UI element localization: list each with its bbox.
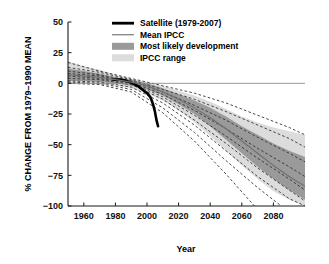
y-tick-label: 0 — [58, 79, 63, 89]
x-tick-label: 1980 — [105, 211, 125, 221]
y-tick-label: 25 — [53, 48, 63, 58]
x-tick-label: 2080 — [263, 211, 283, 221]
chart-figure: 196019802000202020402060208050250−25−50−… — [0, 0, 329, 264]
x-tick-label: 2000 — [137, 211, 157, 221]
legend-label-4: IPCC range — [140, 53, 186, 63]
x-tick-label: 1960 — [74, 211, 94, 221]
legend-label-2: Mean IPCC — [140, 30, 184, 40]
y-axis-label: % CHANGE FROM 1979–1990 MEAN — [23, 36, 33, 191]
x-tick-label: 2040 — [200, 211, 220, 221]
x-axis-label: Year — [176, 244, 196, 254]
y-tick-label: −100 — [43, 201, 63, 211]
legend-label-3: Most likely development — [140, 41, 238, 51]
x-tick-label: 2060 — [232, 211, 252, 221]
y-tick-label: −50 — [48, 140, 63, 150]
y-tick-label: −75 — [48, 171, 63, 181]
legend-label-1: Satellite (1979-2007) — [140, 18, 221, 28]
y-tick-label: −25 — [48, 109, 63, 119]
x-tick-label: 2020 — [169, 211, 189, 221]
legend-swatch-4 — [112, 54, 134, 61]
chart-svg: 196019802000202020402060208050250−25−50−… — [0, 0, 329, 264]
y-tick-label: 50 — [53, 17, 63, 27]
legend-swatch-3 — [112, 43, 134, 50]
